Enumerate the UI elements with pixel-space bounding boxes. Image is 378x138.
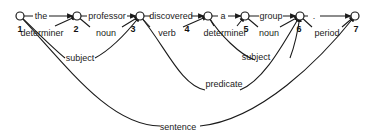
word-label-the: the bbox=[35, 11, 48, 21]
phrase-label-sentence: sentence bbox=[160, 122, 197, 132]
phrase-label-noun-1: noun bbox=[96, 28, 116, 38]
word-label-period-mark: . bbox=[313, 11, 316, 21]
phrase-label-verb: verb bbox=[158, 28, 176, 38]
node-number-7: 7 bbox=[353, 24, 358, 34]
node-6 bbox=[296, 12, 304, 20]
node-number-2: 2 bbox=[73, 24, 78, 34]
phrase-label-predicate: predicate bbox=[205, 79, 242, 89]
phrase-label-period: period bbox=[314, 28, 339, 38]
edge-determiner-4-5 bbox=[208, 16, 245, 26]
phrase-label-subject-2: subject bbox=[242, 52, 271, 62]
phrase-label-noun-2: noun bbox=[259, 28, 279, 38]
node-4 bbox=[204, 12, 212, 20]
node-7 bbox=[351, 12, 359, 20]
phrase-label-determiner-2: determiner bbox=[203, 28, 246, 38]
node-number-4: 4 bbox=[184, 24, 189, 34]
node-number-1: 1 bbox=[17, 24, 22, 34]
node-5 bbox=[241, 12, 249, 20]
node-3 bbox=[136, 12, 144, 20]
node-1 bbox=[16, 12, 24, 20]
word-label-a: a bbox=[220, 11, 225, 21]
word-label-group: group bbox=[259, 11, 282, 21]
node-number-6: 6 bbox=[296, 24, 301, 34]
node-number-5: 5 bbox=[243, 24, 248, 34]
node-2 bbox=[73, 12, 81, 20]
word-label-discovered: discovered bbox=[149, 11, 193, 21]
phrase-label-subject-1: subject bbox=[66, 53, 95, 63]
node-number-3: 3 bbox=[130, 24, 135, 34]
phrase-label-determiner-1: determiner bbox=[20, 28, 63, 38]
word-label-professor: professor bbox=[88, 11, 126, 21]
dependency-diagram: the professor discovered a group . deter… bbox=[0, 0, 378, 138]
